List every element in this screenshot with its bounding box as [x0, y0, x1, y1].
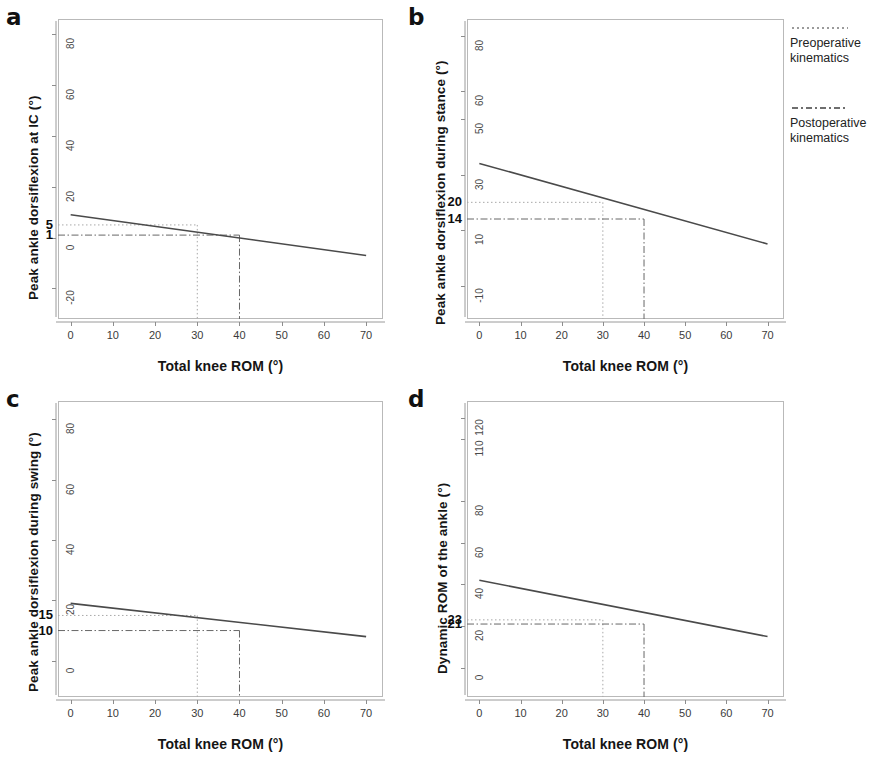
x-tick-label: 40	[631, 329, 657, 341]
y-tick-label: 50	[474, 118, 485, 140]
x-tick-mark	[479, 700, 480, 704]
x-tick-label: 40	[226, 329, 252, 341]
y-tick-mark	[461, 230, 465, 231]
x-tick-mark	[479, 322, 480, 326]
legend-label-postoperative-line2: kinematics	[790, 131, 887, 146]
y-tick-label: 80	[65, 418, 76, 440]
x-tick-mark	[324, 700, 325, 704]
y-tick-label: 20	[474, 625, 485, 647]
legend-swatch-postoperative-icon	[792, 107, 848, 109]
x-tick-mark	[282, 700, 283, 704]
x-tick-label: 20	[549, 329, 575, 341]
panel-d-graphics	[405, 382, 805, 763]
x-tick-label: 10	[100, 707, 126, 719]
x-tick-mark	[768, 322, 769, 326]
legend-label-postoperative: Postoperative kinematics	[790, 116, 887, 146]
x-tick-mark	[71, 322, 72, 326]
x-tick-mark	[562, 700, 563, 704]
x-tick-mark	[644, 322, 645, 326]
x-tick-mark	[726, 700, 727, 704]
panel-c: c Peak ankle dorsiflexion during swing (…	[0, 382, 440, 763]
y-tick-mark	[461, 418, 465, 419]
y-tick-label: 20	[65, 599, 76, 621]
x-tick-label: 70	[755, 707, 781, 719]
x-tick-label: 20	[142, 329, 168, 341]
y-tick-label: 60	[474, 541, 485, 563]
panel-d-y-axis-title: Dynamic ROM of the ankle (°)	[435, 483, 450, 674]
x-tick-mark	[521, 700, 522, 704]
y-tick-mark	[461, 439, 465, 440]
y-tick-label: 0	[65, 659, 76, 681]
value-label-postoperative: 14	[431, 211, 462, 226]
y-tick-label: 80	[474, 500, 485, 522]
x-tick-label: 30	[590, 707, 616, 719]
x-tick-label: 0	[58, 707, 84, 719]
x-tick-mark	[562, 322, 563, 326]
x-tick-label: 30	[590, 329, 616, 341]
x-tick-label: 0	[58, 329, 84, 341]
y-tick-label: 20	[65, 185, 76, 207]
x-tick-mark	[768, 700, 769, 704]
x-tick-label: 70	[755, 329, 781, 341]
x-tick-mark	[603, 700, 604, 704]
panel-d: d Dynamic ROM of the ankle (°) Total kne…	[405, 382, 805, 763]
y-tick-mark	[461, 119, 465, 120]
y-tick-mark	[461, 584, 465, 585]
y-tick-mark	[52, 419, 56, 420]
y-tick-mark	[461, 668, 465, 669]
x-tick-mark	[113, 322, 114, 326]
value-label-preoperative: 20	[431, 194, 462, 209]
y-tick-label: 0	[474, 666, 485, 688]
panel-b-x-axis-title: Total knee ROM (°)	[467, 358, 784, 374]
x-tick-mark	[726, 322, 727, 326]
x-tick-label: 60	[311, 329, 337, 341]
y-tick-mark	[52, 136, 56, 137]
y-tick-mark	[52, 34, 56, 35]
x-tick-label: 50	[269, 707, 295, 719]
x-tick-mark	[366, 322, 367, 326]
legend-label-preoperative-line2: kinematics	[790, 51, 887, 66]
y-tick-mark	[461, 36, 465, 37]
y-tick-label: 60	[474, 90, 485, 112]
x-tick-mark	[71, 700, 72, 704]
x-tick-mark	[155, 700, 156, 704]
x-tick-mark	[366, 700, 367, 704]
x-tick-label: 50	[269, 329, 295, 341]
x-tick-label: 0	[466, 707, 492, 719]
y-tick-mark	[52, 540, 56, 541]
y-tick-mark	[461, 286, 465, 287]
panel-a: a Peak ankle dorsiflexion at IC (°) Tota…	[0, 0, 440, 390]
value-label-postoperative: 1	[22, 227, 53, 242]
y-tick-label: 80	[65, 33, 76, 55]
panel-a-y-axis-title: Peak ankle dorsiflexion at IC (°)	[26, 95, 41, 300]
y-tick-label: 40	[65, 134, 76, 156]
y-tick-label: 40	[65, 538, 76, 560]
legend-label-postoperative-line1: Postoperative	[790, 116, 887, 131]
y-tick-mark	[461, 91, 465, 92]
y-tick-mark	[52, 187, 56, 188]
figure-four-panel-regression: a Peak ankle dorsiflexion at IC (°) Tota…	[0, 0, 887, 763]
y-tick-label: 80	[474, 34, 485, 56]
x-tick-mark	[113, 700, 114, 704]
legend-label-preoperative: Preoperative kinematics	[790, 36, 887, 66]
x-tick-label: 30	[184, 707, 210, 719]
x-tick-mark	[282, 322, 283, 326]
y-tick-label: 110	[474, 437, 485, 459]
x-tick-label: 50	[672, 707, 698, 719]
x-tick-mark	[197, 322, 198, 326]
value-label-preoperative: 15	[22, 607, 53, 622]
panel-b-y-axis-title: Peak ankle dorsiflexion during stance (°…	[433, 60, 448, 325]
y-tick-mark	[52, 288, 56, 289]
x-tick-mark	[197, 700, 198, 704]
x-tick-mark	[239, 322, 240, 326]
x-tick-mark	[324, 322, 325, 326]
panel-c-x-axis-title: Total knee ROM (°)	[58, 736, 383, 752]
x-tick-mark	[685, 322, 686, 326]
y-tick-label: 60	[65, 478, 76, 500]
x-tick-label: 20	[142, 707, 168, 719]
legend-label-preoperative-line1: Preoperative	[790, 36, 887, 51]
y-tick-mark	[52, 480, 56, 481]
x-tick-mark	[644, 700, 645, 704]
x-tick-mark	[521, 322, 522, 326]
value-label-postoperative: 10	[22, 623, 53, 638]
